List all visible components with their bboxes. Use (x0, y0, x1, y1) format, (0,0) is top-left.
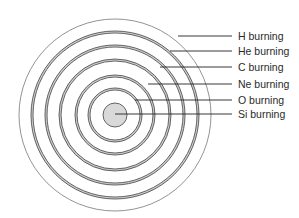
label-c-burning: C burning (238, 61, 284, 73)
label-h-burning: H burning (238, 30, 284, 42)
label-he-burning: He burning (238, 45, 289, 57)
si-core (103, 103, 127, 127)
label-ne-burning: Ne burning (238, 78, 289, 90)
label-o-burning: O burning (238, 94, 284, 106)
label-si-burning: Si burning (238, 108, 285, 120)
